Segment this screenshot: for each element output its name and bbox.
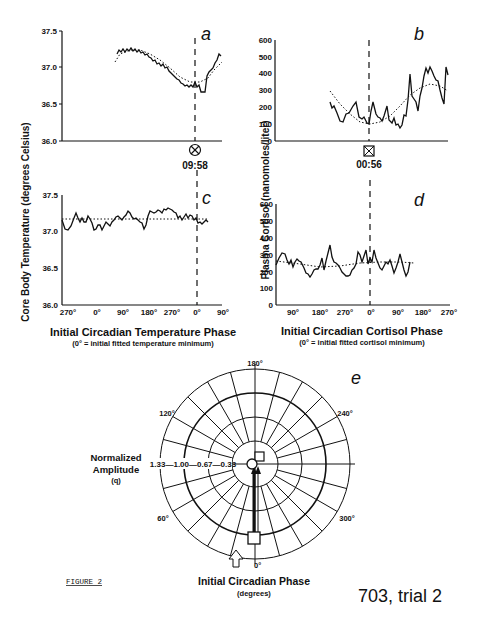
tick-c-x-3: 180° bbox=[141, 308, 158, 317]
tick-b-100: 100 bbox=[259, 120, 273, 129]
marker-time-a: 09:58 bbox=[182, 160, 208, 171]
tick-d-500: 500 bbox=[260, 217, 274, 226]
tick-b-500: 500 bbox=[259, 53, 273, 62]
amplitude-label-3: (q) bbox=[111, 476, 121, 485]
tick-c-365: 36.5 bbox=[42, 264, 58, 273]
temp-y-axis-label: Core Body Temperature (degrees Celsius) bbox=[20, 122, 31, 321]
tick-c-x-4: 270° bbox=[164, 308, 181, 317]
panel-c: 37.5 37.0 36.5 36.0 c 270° 0° 90° 180° 2… bbox=[42, 170, 236, 348]
tick-c-370: 37.0 bbox=[42, 227, 58, 236]
panel-label-e: e bbox=[351, 368, 361, 388]
tick-c-x-5: 0° bbox=[193, 308, 201, 317]
tick-b-400: 400 bbox=[259, 69, 273, 78]
tick-c-x-2: 90° bbox=[117, 308, 129, 317]
tick-d-x-4: 90° bbox=[392, 308, 404, 317]
panel-label-a: a bbox=[201, 24, 211, 44]
circle-x-icon bbox=[190, 145, 201, 156]
figure-canvas: Core Body Temperature (degrees Celsius) … bbox=[0, 0, 479, 619]
amplitude-label-2: Amplitude bbox=[93, 464, 139, 475]
tick-c-x-0: 270° bbox=[60, 308, 77, 317]
tick-c-x-6: 90° bbox=[217, 308, 229, 317]
d-x-axis-label: Initial Circadian Cortisol Phase bbox=[281, 325, 443, 337]
angle-0-label: 0° bbox=[254, 561, 261, 570]
tick-d-x-1: 180° bbox=[312, 308, 329, 317]
angle-180-label: 180° bbox=[247, 359, 263, 368]
tick-c-360: 36.0 bbox=[42, 301, 58, 310]
stimulus-square-marker bbox=[248, 532, 260, 544]
panel-e-polar-plot: e 180° 120° 240° 60° 300° 0° 1.33—1.00—0… bbox=[90, 359, 361, 598]
c-x-axis-sublabel: (0° = initial fitted temperature minimum… bbox=[72, 339, 214, 348]
tick-d-100: 100 bbox=[260, 284, 274, 293]
panel-label-c: c bbox=[202, 188, 211, 208]
tick-a-370: 37.0 bbox=[41, 63, 57, 72]
tick-b-600: 600 bbox=[259, 36, 273, 45]
marker-time-b: 00:56 bbox=[356, 159, 382, 170]
trial-label: 703, trial 2 bbox=[358, 586, 442, 606]
amplitude-label-1: Normalized bbox=[90, 452, 141, 463]
tick-a-360: 36.0 bbox=[41, 137, 57, 146]
panel-d: 600 500 400 300 200 100 0 d 90° 180° 270… bbox=[260, 180, 458, 347]
tick-b-300: 300 bbox=[259, 86, 273, 95]
tick-b-0: 0 bbox=[268, 137, 273, 146]
tick-d-0: 0 bbox=[269, 301, 274, 310]
angle-300-label: 300° bbox=[339, 514, 355, 523]
tick-d-300: 300 bbox=[260, 251, 274, 260]
angle-120-label: 120° bbox=[159, 409, 175, 418]
tick-d-x-6: 270° bbox=[441, 308, 458, 317]
panel-b: 600 500 400 300 200 100 0 b 00:56 bbox=[259, 24, 448, 170]
tick-d-x-2: 270° bbox=[337, 308, 354, 317]
tick-c-x-1: 0° bbox=[93, 308, 101, 317]
square-x-icon bbox=[364, 146, 374, 156]
tick-b-200: 200 bbox=[259, 103, 273, 112]
tick-d-x-0: 90° bbox=[287, 308, 299, 317]
tick-a-365: 36.5 bbox=[41, 100, 57, 109]
e-x-axis-sublabel: (degrees) bbox=[237, 589, 271, 598]
e-x-axis-label: Initial Circadian Phase bbox=[198, 575, 310, 587]
tick-d-600: 600 bbox=[260, 200, 274, 209]
tick-d-400: 400 bbox=[260, 234, 274, 243]
d-x-axis-sublabel: (0° = initial fitted cortisol minimum) bbox=[299, 338, 425, 347]
cortisol-square-marker bbox=[255, 452, 264, 461]
panel-label-b: b bbox=[414, 24, 424, 44]
figure-caption: FIGURE 2 bbox=[66, 578, 102, 586]
panel-label-d: d bbox=[414, 190, 425, 210]
angle-60-label: 60° bbox=[157, 514, 168, 523]
tick-d-200: 200 bbox=[260, 268, 274, 277]
c-x-axis-label: Initial Circadian Temperature Phase bbox=[50, 326, 236, 338]
tick-a-375: 37.5 bbox=[41, 27, 57, 36]
panel-a: 37.5 37.0 36.5 36.0 a 09:58 bbox=[41, 24, 222, 171]
radial-tick-labels: 1.33—1.00—0.67—0.33 bbox=[150, 460, 237, 469]
tick-d-x-3: 0° bbox=[367, 308, 375, 317]
angle-240-label: 240° bbox=[337, 409, 353, 418]
temperature-circle-marker bbox=[247, 459, 257, 469]
tick-c-375: 37.5 bbox=[42, 191, 58, 200]
tick-d-x-5: 180° bbox=[415, 308, 432, 317]
